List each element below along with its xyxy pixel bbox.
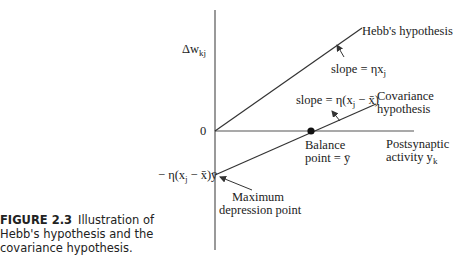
depression-arrow <box>220 177 252 190</box>
x-axis-label: Postsynaptic <box>386 137 450 151</box>
depression-point-label: Maximum <box>232 190 284 204</box>
covariance-label: Covariance <box>377 89 434 103</box>
x-axis-label-2: activity yk <box>386 150 438 166</box>
hebb-slope-label: slope = ηxj <box>331 62 386 78</box>
origin-label: 0 <box>200 124 206 138</box>
covariance-label-2: hypothesis <box>377 102 431 116</box>
balance-point-label-2: point = ȳ <box>305 151 351 165</box>
figure-caption: FIGURE 2.3Illustration of Hebb's hypothe… <box>0 213 165 255</box>
covariance-slope-arrow <box>332 111 340 121</box>
figure-number: FIGURE 2.3 <box>0 213 72 227</box>
depression-value-label: − η(xj − x̄)ȳ <box>158 168 218 184</box>
depression-point-label-2: depression point <box>219 203 302 217</box>
hebb-slope-arrow <box>337 45 344 57</box>
hebb-line <box>215 28 362 131</box>
balance-point-marker <box>307 127 314 134</box>
hebb-label: Hebb's hypothesis <box>362 24 453 38</box>
y-axis-label: Δwkj <box>182 42 206 58</box>
balance-point-label: Balance <box>305 138 346 152</box>
covariance-slope-label: slope = η(xj − x̄) <box>296 93 379 109</box>
